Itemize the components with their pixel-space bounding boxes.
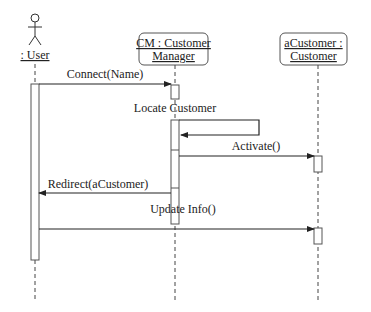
- user-actor-icon: [28, 14, 42, 45]
- lifeline-head-acustomer: aCustomer : Customer: [280, 33, 347, 65]
- lifeline-label-user: : User: [21, 48, 50, 62]
- message-label-locate: Locate Customer: [134, 101, 216, 115]
- activation-cm-connect: [171, 85, 179, 99]
- lifeline-head-cm: CM : Customer Manager: [136, 33, 211, 65]
- lifeline-label-cm-line1: CM : Customer: [136, 36, 211, 50]
- message-label-update: Update Info(): [150, 202, 216, 216]
- activation-acustomer-update: [314, 228, 322, 244]
- message-label-redirect: Redirect(aCustomer): [48, 177, 149, 191]
- activation-user: [31, 84, 39, 260]
- lifeline-label-cm-line2: Manager: [152, 49, 195, 63]
- message-activate: Activate(): [179, 139, 314, 156]
- message-label-activate: Activate(): [232, 139, 281, 153]
- message-connect: Connect(Name): [39, 67, 171, 84]
- activation-acustomer-activate: [314, 156, 322, 172]
- message-label-connect: Connect(Name): [67, 67, 144, 81]
- message-redirect: Redirect(aCustomer): [39, 177, 171, 193]
- message-update-info: Update Info(): [39, 202, 314, 229]
- lifeline-label-acustomer-line1: aCustomer :: [284, 36, 342, 50]
- message-locate-customer: Locate Customer: [134, 101, 259, 135]
- lifeline-label-acustomer-line2: Customer: [290, 49, 337, 63]
- sequence-diagram: : User CM : Customer Manager aCustomer :…: [0, 0, 371, 312]
